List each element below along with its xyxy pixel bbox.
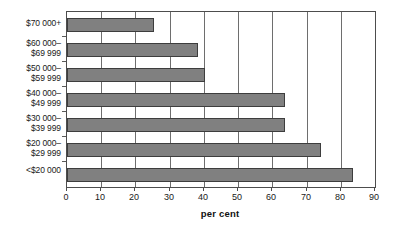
x-axis-tick-label-90: 90 [359, 192, 389, 202]
gridline-70 [307, 12, 308, 187]
y-axis-label-6: <$20 000 [0, 166, 61, 176]
x-axis-tick-label-30: 30 [154, 192, 184, 202]
x-axis-tick-10 [100, 187, 101, 191]
x-axis-tick-80 [340, 187, 341, 191]
x-axis-tick-label-50: 50 [222, 192, 252, 202]
bar [67, 118, 285, 132]
x-axis-tick-label-0: 0 [51, 192, 81, 202]
x-axis-tick-0 [66, 187, 67, 191]
x-axis-tick-50 [237, 187, 238, 191]
x-axis-tick-label-40: 40 [188, 192, 218, 202]
y-axis-label-1: $60 000– $69 999 [0, 39, 61, 58]
y-axis-label-3: $40 000– $49 999 [0, 89, 61, 108]
bar [67, 143, 321, 157]
x-axis-tick-label-20: 20 [119, 192, 149, 202]
y-axis-label-5: $20 000– $29 999 [0, 139, 61, 158]
bar [67, 168, 353, 182]
x-axis-tick-40 [203, 187, 204, 191]
y-axis-label-4: $30 000– $39 999 [0, 114, 61, 133]
y-axis-category-labels: $70 000+ $60 000– $69 999 $50 000– $59 9… [0, 11, 64, 186]
x-axis-tick-60 [271, 187, 272, 191]
x-axis-tick-label-70: 70 [291, 192, 321, 202]
x-axis-tick-label-10: 10 [85, 192, 115, 202]
bar [67, 68, 205, 82]
x-axis-tick-20 [134, 187, 135, 191]
x-axis-tick-label-80: 80 [325, 192, 355, 202]
bar [67, 93, 285, 107]
plot-area [66, 11, 376, 188]
gridline-80 [341, 12, 342, 187]
x-axis-tick-label-60: 60 [256, 192, 286, 202]
y-axis-label-2: $50 000– $59 999 [0, 64, 61, 83]
x-axis-title: per cent [66, 208, 374, 219]
bar [67, 18, 154, 32]
bar-chart: $70 000+ $60 000– $69 999 $50 000– $59 9… [0, 0, 395, 239]
x-axis-tick-30 [169, 187, 170, 191]
x-axis-tick-90 [374, 187, 375, 191]
bar [67, 43, 198, 57]
x-axis-tick-70 [306, 187, 307, 191]
y-axis-label-0: $70 000+ [0, 19, 61, 29]
